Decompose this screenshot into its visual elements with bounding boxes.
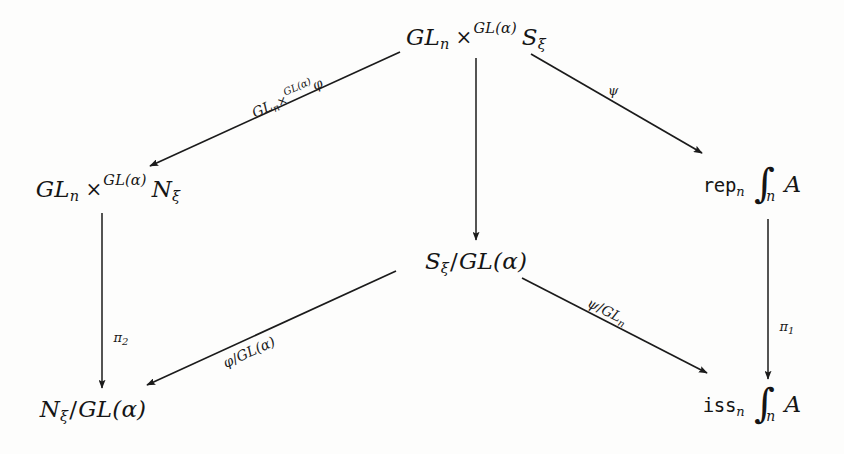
node-bottom-left: Nξ/GL(α) xyxy=(40,396,147,424)
arrow-label-pi2: π2 xyxy=(114,330,129,347)
node-leftmid-base2: N xyxy=(152,176,172,202)
node-leftmid-sub1: n xyxy=(70,188,80,204)
rep-operator-sub: n xyxy=(736,184,744,199)
rep-operator: repn xyxy=(703,174,745,196)
node-center-slash: / xyxy=(449,248,459,274)
node-right-top: repn∫nA xyxy=(703,171,802,199)
rep-operand: A xyxy=(784,171,801,197)
pi1-text: π xyxy=(780,319,789,334)
arrow-label-psi: ψ xyxy=(608,83,618,98)
node-bottomleft-sub1: ξ xyxy=(60,408,68,424)
commutative-diagram-canvas xyxy=(0,0,844,454)
iss-operator: issn xyxy=(703,394,745,416)
node-top-sup: GL(α) xyxy=(474,20,517,36)
pi2-sub: 2 xyxy=(122,336,128,347)
iss-operand: A xyxy=(784,391,801,417)
node-bottom-right: issn∫nA xyxy=(703,391,802,419)
node-top: GLn×GL(α)Sξ xyxy=(406,20,546,51)
node-leftmid-times: × xyxy=(84,178,103,202)
node-top-sub1: n xyxy=(440,36,450,52)
rep-operator-text: rep xyxy=(703,174,736,196)
node-leftmid-sup: GL(α) xyxy=(103,172,146,188)
node-center: Sξ/GL(α) xyxy=(425,248,527,276)
pi1-sub: 1 xyxy=(788,325,794,336)
integral-sub: n xyxy=(766,188,775,204)
node-center-base2: GL(α) xyxy=(459,248,527,274)
node-center-sub1: ξ xyxy=(441,260,449,276)
node-bottomleft-base2: GL(α) xyxy=(78,396,146,422)
integral-sub: n xyxy=(766,408,775,424)
diagram-page: GLn×GL(α)Sξ GLn×GL(α)Nξ Sξ/GL(α) repn∫nA… xyxy=(0,0,844,454)
arrow-label-pi1: π1 xyxy=(780,319,795,336)
node-bottomleft-slash: / xyxy=(68,396,78,422)
node-top-times: × xyxy=(455,26,474,50)
node-left-mid: GLn×GL(α)Nξ xyxy=(36,172,180,203)
node-top-base2: S xyxy=(522,24,538,50)
iss-operator-sub: n xyxy=(736,404,744,419)
node-top-sub2: ξ xyxy=(538,36,546,52)
node-bottomleft-base1: N xyxy=(40,396,60,422)
node-leftmid-base1: GL xyxy=(36,176,70,202)
psi-text: ψ xyxy=(608,83,618,98)
iss-operator-text: iss xyxy=(703,394,736,416)
pi2-text: π xyxy=(114,330,123,345)
arrow-top-to-righttop xyxy=(531,54,702,153)
node-center-base1: S xyxy=(425,248,441,274)
node-top-base1: GL xyxy=(406,24,440,50)
arrow-center-to-bottomleft xyxy=(147,271,396,385)
node-leftmid-sub2: ξ xyxy=(172,188,180,204)
